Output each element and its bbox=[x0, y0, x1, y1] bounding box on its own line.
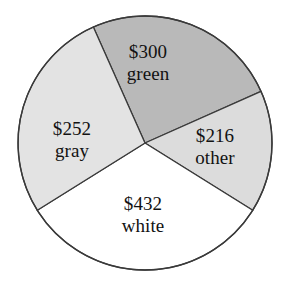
pie-label-gray-value: $252 bbox=[53, 118, 91, 140]
pie-label-gray-name: gray bbox=[53, 140, 91, 162]
pie-label-white-value: $432 bbox=[122, 193, 165, 215]
pie-chart-figure: $300 green $216 other $432 white $252 gr… bbox=[0, 0, 292, 281]
pie-label-green: $300 green bbox=[127, 41, 170, 85]
pie-label-white-name: white bbox=[122, 215, 165, 237]
pie-label-gray: $252 gray bbox=[53, 118, 91, 162]
pie-label-other-name: other bbox=[195, 147, 235, 169]
pie-label-green-name: green bbox=[127, 63, 170, 85]
pie-label-green-value: $300 bbox=[127, 41, 170, 63]
pie-label-white: $432 white bbox=[122, 193, 165, 237]
pie-label-other: $216 other bbox=[195, 125, 235, 169]
pie-label-other-value: $216 bbox=[195, 125, 235, 147]
